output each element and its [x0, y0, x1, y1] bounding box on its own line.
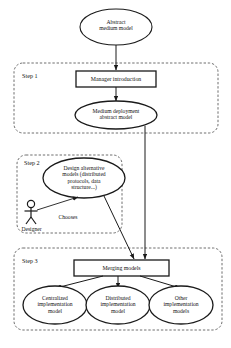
node-merging-models [74, 260, 169, 276]
node-manager-introduction [76, 71, 156, 87]
node-design-alternative-models [43, 158, 125, 198]
node-distributed-implementation-model [86, 286, 150, 324]
node-medium-deployment-abstract-model [75, 101, 157, 129]
diagram-canvas: Abstract medium model Step 1 Manager int… [0, 0, 231, 348]
node-other-implementation-models [149, 286, 213, 324]
diagram-vector-layer [0, 0, 231, 348]
actor-designer-figure [25, 200, 38, 224]
node-abstract-medium-model [80, 9, 152, 45]
edge-design-models-to-merging [104, 196, 134, 259]
edge-designer-chooses [37, 197, 78, 210]
node-centralized-implementation-model [23, 286, 87, 324]
